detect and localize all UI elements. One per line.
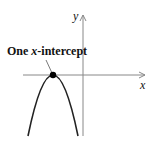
- x-intercept-label: One x-intercept: [7, 44, 87, 59]
- parabola-curve: [28, 75, 78, 136]
- graph: [0, 0, 158, 152]
- leader-line: [46, 60, 52, 73]
- x-intercept-point: [50, 72, 56, 78]
- x-axis-label: x: [140, 78, 145, 93]
- y-axis-label: y: [73, 9, 78, 24]
- diagram: One x-intercept y x: [0, 0, 158, 152]
